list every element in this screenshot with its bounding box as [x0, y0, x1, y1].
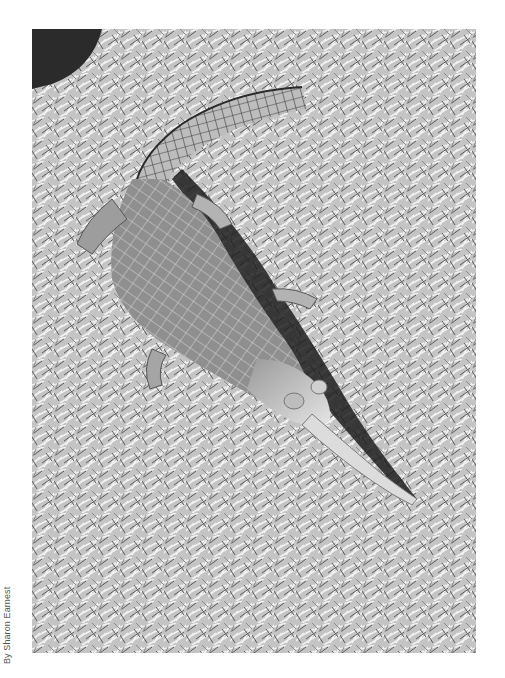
gharial-photograph: [32, 29, 476, 653]
photo-credit: By Sharon Earnest: [2, 604, 16, 664]
eye-bump: [284, 393, 304, 409]
eye-bump-right: [311, 380, 327, 394]
photo-canvas: [32, 29, 476, 653]
